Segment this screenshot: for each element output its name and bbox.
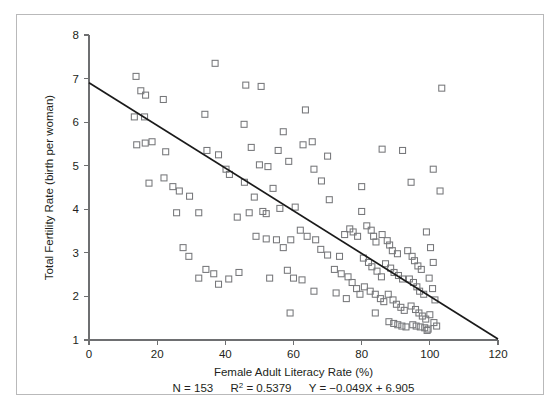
data-point [426, 275, 432, 281]
data-point [202, 111, 208, 117]
data-point [368, 227, 374, 233]
data-point [354, 286, 360, 292]
y-tick-label-5: 5 [73, 160, 79, 172]
data-point [357, 291, 363, 297]
data-point [385, 291, 391, 297]
stats-r2-value: = 0.5379 [243, 382, 309, 394]
data-point [286, 158, 292, 164]
data-point [372, 310, 378, 316]
data-point [131, 114, 137, 120]
data-point [253, 233, 259, 239]
data-point [216, 281, 222, 287]
data-point [384, 238, 390, 244]
data-point [304, 233, 310, 239]
data-point [405, 248, 411, 254]
data-point [326, 197, 332, 203]
data-point [263, 236, 269, 242]
data-point [256, 162, 262, 168]
stats-r2-prefix: R [230, 382, 238, 394]
data-point [241, 121, 247, 127]
data-point [430, 259, 436, 265]
regression-line [89, 83, 498, 339]
chart-root: 02040608010012012345678Female Adult Lite… [0, 0, 560, 411]
data-point [349, 279, 355, 285]
data-point [297, 227, 303, 233]
data-point [186, 253, 192, 259]
data-point [437, 188, 443, 194]
data-point [408, 179, 414, 185]
data-point [142, 140, 148, 146]
data-point [204, 147, 210, 153]
data-point [251, 194, 257, 200]
data-point [309, 139, 315, 145]
data-point [146, 180, 152, 186]
data-point [270, 185, 276, 191]
data-point [311, 166, 317, 172]
data-point [378, 274, 384, 280]
data-point [216, 152, 222, 158]
y-tick-label-7: 7 [73, 73, 79, 85]
data-point [275, 147, 281, 153]
stats-n: N = 153 [173, 382, 231, 394]
data-point [246, 210, 252, 216]
y-tick-label-4: 4 [73, 203, 80, 215]
data-points-group [131, 60, 444, 333]
data-point [133, 73, 139, 79]
data-point [373, 239, 379, 245]
data-point [258, 83, 264, 89]
data-point [176, 188, 182, 194]
data-point [333, 290, 339, 296]
data-point [379, 232, 385, 238]
x-tick-label-80: 80 [355, 348, 368, 360]
data-point [342, 232, 348, 238]
data-point [364, 223, 370, 229]
regression-group [89, 83, 498, 339]
data-point [387, 242, 393, 248]
stats-equation: Y = −0.049X + 6.905 [309, 382, 415, 394]
data-point [267, 275, 273, 281]
data-point [325, 252, 331, 258]
data-point [196, 210, 202, 216]
data-point [280, 245, 286, 251]
data-point [400, 147, 406, 153]
data-point [149, 139, 155, 145]
data-point [430, 166, 436, 172]
data-point [187, 193, 193, 199]
data-point [345, 274, 351, 280]
data-point [355, 233, 361, 239]
data-point [331, 266, 337, 272]
data-point [212, 60, 218, 66]
data-point [359, 184, 365, 190]
data-point [234, 214, 240, 220]
data-point [427, 312, 433, 318]
y-tick-label-8: 8 [73, 29, 79, 41]
data-point [423, 229, 429, 235]
data-point [170, 184, 176, 190]
data-point [325, 153, 331, 159]
x-axis-title: Female Adult Literacy Rate (%) [214, 366, 373, 378]
data-point [288, 237, 294, 243]
data-point [273, 237, 279, 243]
data-point [299, 277, 305, 283]
data-point [174, 210, 180, 216]
data-point [160, 96, 166, 102]
x-tick-label-40: 40 [219, 348, 232, 360]
y-tick-label-2: 2 [73, 290, 79, 302]
data-point [359, 208, 365, 214]
data-point [302, 107, 308, 113]
data-point [180, 245, 186, 251]
data-point [292, 204, 298, 210]
data-point [211, 271, 217, 277]
data-point [409, 253, 415, 259]
y-tick-label-1: 1 [73, 334, 79, 346]
data-point [226, 276, 232, 282]
data-point [343, 296, 349, 302]
data-point [248, 144, 254, 150]
data-point [280, 129, 286, 135]
data-point [318, 178, 324, 184]
data-point [277, 205, 283, 211]
scatter-plot: 02040608010012012345678Female Adult Lite… [0, 0, 560, 411]
data-point [371, 233, 377, 239]
data-point [163, 149, 169, 155]
data-point [311, 288, 317, 294]
